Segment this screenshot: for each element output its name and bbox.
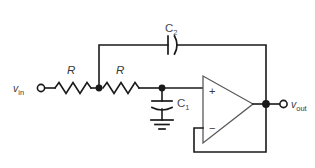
capacitor1-label-sub: 1 <box>185 103 189 112</box>
wire-node1-to-c2-left <box>99 45 168 88</box>
resistor2-label: R <box>116 65 124 77</box>
capacitor2-label: C2 <box>165 23 177 37</box>
circuit-diagram-canvas: vin R R C1 C2 + − vout <box>0 0 315 168</box>
opamp-noninverting-sign: + <box>209 86 215 97</box>
output-terminal-label: vout <box>291 99 307 113</box>
capacitor2-label-sub: 2 <box>173 28 177 37</box>
resistor2-symbol <box>103 83 139 94</box>
output-label-sub: out <box>296 104 306 113</box>
capacitor1-label: C1 <box>177 98 189 112</box>
opamp-inverting-sign: − <box>209 123 215 134</box>
resistor1-symbol <box>55 83 91 94</box>
capacitor2-right-plate <box>175 36 178 54</box>
output-terminal-circle <box>280 100 287 107</box>
resistor1-label: R <box>67 65 75 77</box>
junction-dot-node2 <box>159 85 166 92</box>
circuit-schematic <box>0 0 315 168</box>
junction-dot-node1 <box>96 85 103 92</box>
input-terminal-label: vin <box>13 83 24 97</box>
junction-dot-output <box>262 100 270 108</box>
input-label-sub: in <box>18 88 24 97</box>
input-terminal-circle <box>37 84 44 91</box>
